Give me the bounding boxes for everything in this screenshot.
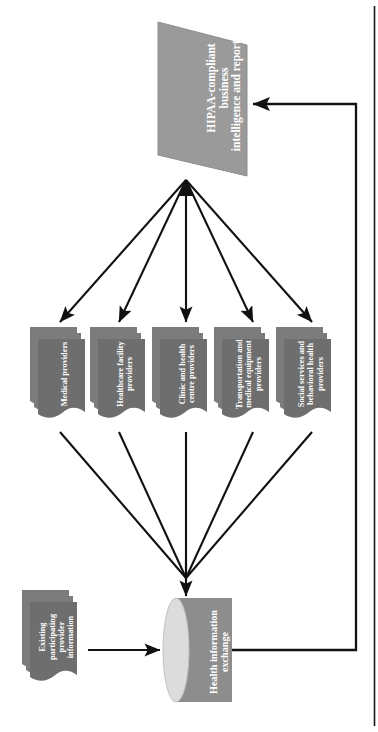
node-provider-3 — [152, 327, 207, 418]
node-existing-info — [22, 590, 77, 681]
node-provider-1 — [30, 327, 85, 418]
diagram-graphics — [0, 0, 378, 732]
node-provider-4 — [214, 327, 269, 418]
node-provider-5 — [276, 327, 331, 418]
connector-providers-to-datastore — [60, 432, 312, 596]
diagram-canvas: HIPAA-compliant business intelligence an… — [0, 0, 378, 732]
connector-output-to-providers — [60, 180, 312, 322]
node-datastore-cylinder — [163, 598, 232, 702]
node-provider-2 — [90, 327, 145, 418]
node-output-parallelogram — [158, 22, 247, 176]
